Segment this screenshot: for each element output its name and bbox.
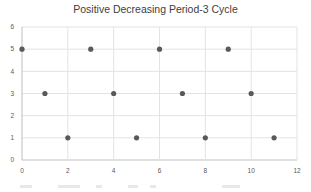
data-point [249,91,254,96]
data-point [226,47,231,52]
data-point [111,91,116,96]
scatter-plot: 0123456024681012 [0,0,311,192]
x-tick-label: 4 [112,167,116,174]
y-tick-label: 2 [10,112,14,119]
data-point [180,91,185,96]
y-tick-label: 5 [10,45,14,52]
y-tick-label: 1 [10,134,14,141]
caption-fragment [128,185,138,188]
caption-fragment [58,185,80,188]
x-tick-label: 6 [158,167,162,174]
caption-fragment [20,185,32,188]
data-point [271,135,276,140]
x-tick-label: 8 [204,167,208,174]
caption-fragment [96,185,102,188]
y-tick-label: 4 [10,68,14,75]
data-point [65,135,70,140]
caption-fragment [150,185,156,188]
data-point [203,135,208,140]
x-tick-label: 10 [248,167,256,174]
y-tick-label: 3 [10,90,14,97]
y-tick-label: 6 [10,23,14,30]
data-point [157,47,162,52]
x-tick-label: 0 [20,167,24,174]
y-tick-label: 0 [10,156,14,163]
data-point [42,91,47,96]
data-point [19,47,24,52]
data-point [134,135,139,140]
caption-fragment [222,185,240,188]
x-tick-label: 12 [293,167,301,174]
data-point [88,47,93,52]
x-tick-label: 2 [66,167,70,174]
